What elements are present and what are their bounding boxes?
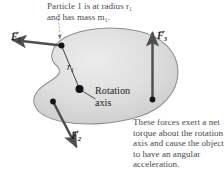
force-f2-application-dot <box>50 99 56 105</box>
particle-annotation-text: Particle 1 is at radius r₁ and has mass … <box>47 1 169 22</box>
force-subscript-f2: 2 <box>78 135 81 142</box>
vector-accent-f1: → <box>12 26 21 36</box>
rotation-axis-dot <box>76 85 84 93</box>
force-subscript-f1: 1 <box>18 36 21 43</box>
physics-rotation-figure: Particle 1 is at radius r₁ and has mass … <box>0 0 224 180</box>
particle-1-dot <box>59 43 65 49</box>
force-label-f3: → F3 <box>157 30 167 42</box>
torque-annotation-text: These forces exert a net torque about th… <box>133 117 224 170</box>
rotation-axis-label: Rotation axis <box>95 85 161 109</box>
rigid-body-shape <box>34 28 178 124</box>
vector-accent-f2: → <box>72 125 81 135</box>
force-label-f1: → F1 <box>11 31 21 43</box>
force-subscript-f3: 3 <box>164 35 167 42</box>
force-label-f2: → F2 <box>71 130 81 142</box>
radius-subscript: 1 <box>71 66 74 73</box>
vector-accent-f3: → <box>158 25 167 35</box>
radius-label: r1 <box>67 61 74 73</box>
